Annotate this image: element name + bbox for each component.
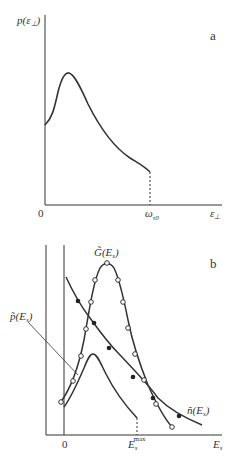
b-leader-p	[28, 322, 78, 375]
b-label-n: ñ(Es)	[187, 404, 210, 418]
b-xlabel: Es	[212, 438, 223, 452]
panel-b-labels: b G̃(Es) p̃(Es) ñ(Es) 0 Esmax Es	[9, 246, 223, 452]
panel-label-b: b	[210, 256, 217, 271]
a-zero-tick: 0	[38, 207, 44, 219]
b-curve-p	[64, 354, 137, 418]
a-xlabel: ε⊥	[210, 207, 220, 221]
b-label-p: p̃(Es)	[9, 310, 33, 324]
panel-label-a: a	[210, 28, 216, 43]
a-curve-p	[45, 73, 150, 172]
b-zero-tick: 0	[62, 438, 68, 450]
b-markers-G	[59, 261, 175, 430]
a-ylabel: p(ε⊥)	[16, 14, 41, 28]
figure: p(ε⊥) a 0 ωτ0 ε⊥	[0, 0, 235, 461]
b-curve-n	[66, 277, 202, 425]
b-markers-n	[76, 299, 182, 419]
panel-a-labels: p(ε⊥) a 0 ωτ0 ε⊥	[16, 14, 220, 222]
panel-a	[45, 15, 222, 205]
a-omega-tick: ωτ0	[145, 207, 159, 222]
b-label-G: G̃(Es)	[94, 246, 119, 260]
b-emax-tick: Esmax	[127, 435, 146, 452]
